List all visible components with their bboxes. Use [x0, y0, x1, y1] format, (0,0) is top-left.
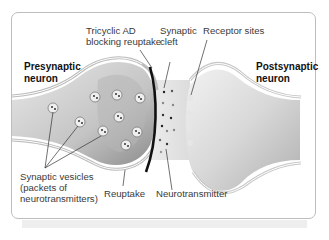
receptor-sites-label: Receptor sites	[203, 25, 264, 36]
synaptic-vesicles-label: Synaptic vesicles (packets of neurotrans…	[20, 171, 98, 204]
reuptake-label: Reuptake	[104, 188, 145, 199]
presynaptic-neuron-label: Presynaptic neuron	[24, 61, 81, 85]
neurotransmitter-label: Neurotransmitter	[156, 188, 227, 199]
tricyclic-ad-label: Tricyclic AD blocking reuptake	[86, 25, 161, 47]
postsynaptic-neuron-label: Postsynaptic neuron	[256, 61, 318, 85]
synaptic-cleft-label: Synaptic cleft	[160, 25, 197, 47]
